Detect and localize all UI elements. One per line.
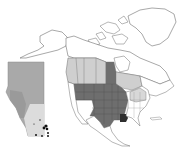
- arctic-islands-outline: [88, 16, 128, 46]
- alberta-inset: [6, 62, 49, 137]
- locality-point: [41, 135, 43, 137]
- locality-point: [47, 135, 49, 137]
- locality-point: [43, 127, 46, 130]
- locality-point: [47, 132, 49, 134]
- locality-point: [35, 134, 37, 136]
- cuba-outline: [150, 117, 162, 120]
- locality-point: [33, 123, 34, 124]
- distribution-map: [0, 0, 183, 148]
- locality-point: [39, 119, 40, 120]
- alaska-outline: [20, 30, 68, 58]
- western-canada-provinces: [66, 58, 106, 84]
- greenland-outline: [128, 8, 176, 46]
- manitoba-shaded: [106, 62, 116, 84]
- locality-point: [46, 128, 49, 131]
